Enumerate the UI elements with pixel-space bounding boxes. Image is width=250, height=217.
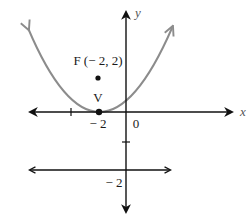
x-axis-label: x	[239, 104, 246, 119]
y-axis-label: y	[133, 5, 141, 20]
focus-label: F (− 2, 2)	[73, 53, 122, 68]
x-tick-label: − 2	[89, 116, 106, 131]
parabola-diagram: F (− 2, 2) V − 2 0 − 2 y x	[0, 0, 250, 217]
origin-label: 0	[133, 116, 140, 131]
focus-point	[95, 75, 100, 80]
directrix-label: − 2	[105, 175, 122, 190]
vertex-point	[96, 109, 102, 115]
vertex-label: V	[93, 90, 103, 105]
